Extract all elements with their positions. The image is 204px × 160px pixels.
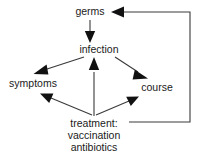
node-label-course: course — [141, 81, 173, 93]
edge-treatment-to-germs — [111, 7, 190, 122]
diagram-canvas: germs infection symptoms course treatmen… — [0, 0, 204, 160]
edge-treatment-to-symptoms-line — [51, 98, 92, 115]
edge-germs-to-infection — [85, 20, 95, 43]
node-label-vaccination: vaccination — [68, 129, 121, 141]
edge-infection-to-symptoms-line — [44, 57, 84, 70]
edge-infection-to-course-line — [115, 57, 138, 72]
edge-treatment-to-course-line — [96, 101, 129, 115]
edge-treatment-to-germs-arrowhead — [111, 7, 124, 18]
edge-infection-to-symptoms — [34, 57, 85, 75]
edge-germs-to-infection-arrowhead — [85, 31, 95, 43]
edge-infection-to-course-arrowhead — [133, 70, 148, 80]
edge-treatment-to-infection-arrowhead — [89, 57, 99, 70]
node-label-symptoms: symptoms — [9, 77, 57, 89]
edge-infection-to-symptoms-arrowhead — [34, 65, 49, 75]
edge-treatment-to-infection — [89, 57, 99, 116]
edge-treatment-to-course — [96, 97, 139, 116]
edge-treatment-to-symptoms — [40, 93, 92, 115]
diagram-svg: germs infection symptoms course treatmen… — [0, 0, 204, 160]
edge-infection-to-course — [115, 57, 148, 80]
node-label-treatment: treatment: — [70, 117, 117, 129]
node-label-infection: infection — [79, 43, 118, 55]
edge-treatment-to-germs-path — [122, 12, 190, 122]
node-label-germs: germs — [75, 5, 104, 17]
node-label-antibiotics: antibiotics — [71, 141, 118, 153]
